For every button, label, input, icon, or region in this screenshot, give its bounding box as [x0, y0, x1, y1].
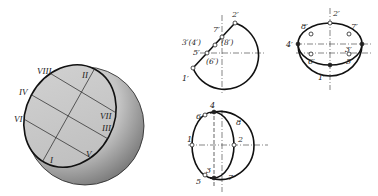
- point-4-side: [212, 110, 216, 114]
- label-6p: (6′): [206, 57, 218, 66]
- label-3p-top: 3′: [345, 45, 352, 54]
- point-6-side: [203, 113, 207, 117]
- label-1p-top: 1′: [318, 73, 325, 82]
- label-5p-top: 5′: [346, 57, 353, 66]
- label-VIII: VIII: [37, 66, 52, 76]
- point-7p-top: [347, 32, 351, 36]
- point-2p: [233, 21, 237, 25]
- label-4p-top: 4′: [285, 40, 293, 49]
- top-view: 2′ 8′ 7′ 4′ 3′ 6′ 5′ 1′: [285, 8, 372, 90]
- label-3-side: 3: [206, 166, 211, 175]
- front-view: 2′ 7′ 3′(4′) (8′) 5′ (6′) 1′: [182, 10, 264, 93]
- pictorial-sphere: VIII II IV VI VII III I V: [6, 49, 144, 185]
- side-view: 4 6 8 1 2 3 5 7: [187, 101, 268, 192]
- point-6p-top: [309, 52, 313, 56]
- label-1-side: 1: [187, 135, 192, 144]
- point-3p-top: [360, 42, 364, 46]
- label-8-side: 8: [236, 118, 241, 127]
- label-5-side: 5: [196, 177, 201, 186]
- label-2-side: 2: [237, 135, 243, 144]
- point-1p-top: [328, 63, 332, 67]
- label-2p-top: 2′: [332, 9, 340, 18]
- point-1p: [191, 66, 195, 70]
- label-6p-top: 6′: [308, 57, 315, 66]
- point-2p-top: [328, 21, 332, 25]
- label-7p: 7′: [213, 25, 220, 34]
- diagram-canvas: VIII II IV VI VII III I V 2′ 7′ 3′(4′) (…: [0, 0, 378, 196]
- label-III: III: [101, 123, 112, 133]
- label-IV: IV: [18, 87, 29, 97]
- label-3p4p: 3′(4′): [182, 38, 201, 47]
- label-2p: 2′: [231, 10, 239, 19]
- point-5p: [205, 51, 209, 55]
- label-5p: 5′: [193, 48, 200, 57]
- label-8p: (8′): [221, 38, 233, 47]
- label-II: II: [81, 70, 89, 80]
- point-3-side: [212, 176, 216, 180]
- point-2-side: [232, 143, 236, 147]
- label-6-side: 6: [196, 112, 201, 121]
- label-4-side: 4: [209, 101, 215, 110]
- label-VI: VI: [14, 114, 23, 124]
- point-3p: [213, 43, 217, 47]
- label-VII: VII: [100, 111, 112, 121]
- point-4p-top: [296, 42, 300, 46]
- label-8p-top: 8′: [301, 22, 308, 31]
- label-7p-top: 7′: [351, 22, 358, 31]
- label-1p: 1′: [182, 74, 189, 83]
- point-8p-top: [309, 32, 313, 36]
